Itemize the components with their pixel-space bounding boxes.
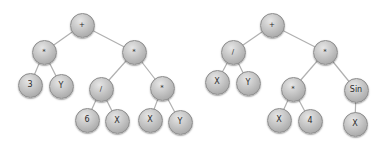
node-label: + — [269, 22, 275, 29]
tree-node: 4 — [298, 109, 323, 134]
tree-node: * — [313, 40, 338, 65]
tree-node: Y — [49, 74, 74, 99]
tree-node: + — [70, 13, 95, 38]
tree-node: * — [122, 40, 147, 65]
node-label: 3 — [27, 81, 32, 89]
tree-node: / — [89, 77, 114, 102]
node-label: * — [160, 85, 164, 92]
node-label: X — [114, 117, 119, 125]
node-label: Y — [178, 118, 183, 126]
tree-node: Y — [236, 71, 261, 96]
node-label: * — [291, 86, 295, 93]
tree-node: 6 — [75, 108, 100, 133]
node-label: 4 — [307, 117, 312, 125]
tree-node: X — [343, 112, 368, 137]
tree-node: Sin — [344, 78, 369, 103]
node-label: Y — [246, 79, 251, 87]
node-label: / — [100, 86, 102, 93]
tree-node: / — [221, 40, 246, 65]
tree-node: X — [138, 108, 163, 133]
node-label: X — [276, 116, 281, 124]
node-label: + — [79, 22, 85, 29]
node-label: Sin — [350, 86, 362, 94]
tree-node: X — [205, 70, 230, 95]
node-label: Y — [59, 82, 64, 90]
tree-node: * — [32, 40, 57, 65]
tree-node: X — [105, 109, 130, 134]
tree-node: Y — [168, 110, 193, 135]
tree-node: X — [267, 108, 292, 133]
node-label: * — [323, 49, 327, 56]
tree-node: * — [150, 76, 175, 101]
node-label: * — [132, 49, 136, 56]
node-label: X — [352, 120, 357, 128]
expression-tree-diagram: +**3Y/*6XXY +/*XY*SinX4X — [0, 0, 384, 144]
node-label: 6 — [84, 116, 89, 124]
tree-node: 3 — [18, 73, 43, 98]
node-label: X — [147, 116, 152, 124]
node-label: * — [42, 49, 46, 56]
tree-node: + — [260, 13, 285, 38]
node-label: / — [232, 49, 234, 56]
tree-node: * — [281, 77, 306, 102]
node-label: X — [214, 78, 219, 86]
